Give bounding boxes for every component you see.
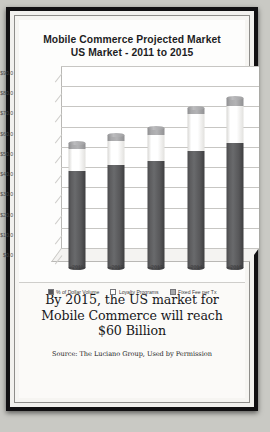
y-axis-tick-label: $60.0 [0, 131, 13, 137]
caption-line-3: $60 Billion [27, 323, 237, 339]
chart-title-line1: Mobile Commerce Projected Market [19, 20, 245, 46]
chart-legend: % of Dollar VolumeLoyalty ProgramsFixed … [19, 289, 245, 295]
bar-segment-loyalty-2015 [227, 106, 244, 142]
plot-area: $90.0$80.0$70.0$60.0$50.0$40.0$30.0$20.0… [19, 62, 245, 282]
y-axis-tick-label: $90.0 [0, 70, 13, 76]
x-axis-tick-label-2015: 2015 [218, 264, 254, 270]
chart-panel: Mobile Commerce Projected Market US Mark… [19, 20, 245, 283]
source-attribution: Source: The Luciano Group, Used by Permi… [27, 350, 237, 358]
bar-cap-2015 [227, 96, 244, 100]
bar-2014 [187, 108, 204, 268]
bar-cap-2011 [68, 141, 85, 145]
legend-swatch-icon [110, 289, 116, 295]
x-axis-tick-label-2013: 2013 [139, 264, 175, 270]
gridline [61, 86, 259, 87]
bar-2013 [148, 128, 165, 268]
y-axis-tick-label: $0.0 [0, 252, 13, 258]
bar-segment-dollar-volume-2012 [108, 165, 125, 268]
bar-segment-dollar-volume-2011 [68, 171, 85, 268]
y-axis-tick-label: $30.0 [0, 191, 13, 197]
poster-frame: Mobile Commerce Projected Market US Mark… [6, 7, 258, 411]
legend-item-2[interactable]: Loyalty Programs [110, 289, 158, 295]
gridline [61, 66, 259, 67]
bar-cap-2014 [187, 106, 204, 110]
legend-label: % of Dollar Volume [56, 289, 99, 295]
legend-item-1[interactable]: % of Dollar Volume [48, 289, 100, 295]
x-axis-tick-label-2012: 2012 [99, 264, 135, 270]
bar-segment-dollar-volume-2015 [227, 143, 244, 268]
caption-panel: By 2015, the US market for Mobile Commer… [19, 283, 245, 398]
chart-title-line2: US Market - 2011 to 2015 [19, 46, 245, 60]
bar-cap-2013 [148, 126, 165, 130]
bar-2011 [68, 143, 85, 268]
y-axis-tick-label: $80.0 [0, 90, 13, 96]
bar-segment-loyalty-2013 [148, 135, 165, 161]
poster-mat: Mobile Commerce Projected Market US Mark… [14, 15, 250, 403]
poster-inner: Mobile Commerce Projected Market US Mark… [19, 20, 245, 398]
bar-segment-fixed-fee-2015 [227, 98, 244, 106]
y-axis-tick-label: $20.0 [0, 212, 13, 218]
y-axis-tick-label: $40.0 [0, 171, 13, 177]
x-axis-tick-label-2014: 2014 [179, 264, 215, 270]
legend-label: Fixed Fee per Tx [178, 289, 216, 295]
bar-segment-loyalty-2011 [68, 149, 85, 171]
bar-segment-loyalty-2012 [108, 141, 125, 165]
y-axis-tick-label: $70.0 [0, 110, 13, 116]
bar-segment-dollar-volume-2014 [187, 151, 204, 268]
x-axis-tick-label-2011: 2011 [60, 264, 96, 270]
legend-swatch-icon [48, 289, 54, 295]
bar-segment-dollar-volume-2013 [148, 161, 165, 268]
legend-label: Loyalty Programs [119, 289, 159, 295]
bar-2015 [227, 98, 244, 268]
y-axis-tick-label: $50.0 [0, 151, 13, 157]
y-axis-tick-label: $10.0 [0, 232, 13, 238]
bar-2012 [108, 135, 125, 268]
caption-line-2: Mobile Commerce will reach [27, 308, 237, 324]
legend-item-3[interactable]: Fixed Fee per Tx [170, 289, 217, 295]
bar-cap-2012 [108, 133, 125, 137]
legend-swatch-icon [170, 289, 176, 295]
bar-segment-loyalty-2014 [187, 114, 204, 150]
